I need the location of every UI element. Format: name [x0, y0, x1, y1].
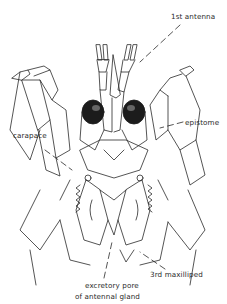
label-excretory-pore-line1: excretory pore	[85, 281, 139, 290]
crayfish-illustration	[0, 0, 227, 304]
label-3rd-maxilliped: 3rd maxilliped	[150, 270, 203, 279]
label-epistome: epistome	[185, 118, 219, 127]
label-carapace: carapace	[13, 131, 47, 140]
label-excretory-pore-line2: of antennal gland	[75, 292, 140, 301]
label-1st-antenna: 1st antenna	[171, 12, 215, 21]
left-antenna	[10, 66, 70, 176]
eyes	[80, 100, 147, 150]
mouthparts	[76, 180, 152, 245]
figure-canvas: 1st antenna carapace epistome 3rd maxill…	[0, 0, 227, 304]
